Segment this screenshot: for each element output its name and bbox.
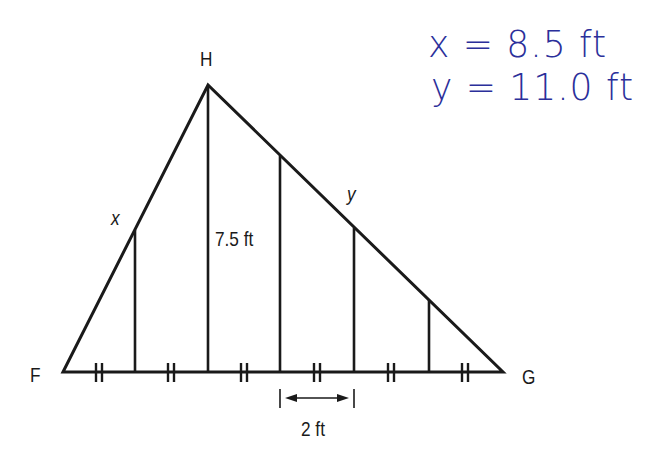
vertex-label-g: G (522, 366, 535, 387)
label-y: y (347, 183, 356, 204)
label-spacing: 2 ft (301, 418, 325, 439)
handwritten-answer-y: y = 11.0 ft (431, 68, 634, 106)
handwritten-answer-x: x = 8.5 ft (428, 25, 607, 63)
label-height: 7.5 ft (215, 228, 253, 249)
dimension-2ft (280, 389, 354, 408)
vertex-label-f: F (30, 364, 41, 385)
triangle-fgh (63, 85, 503, 372)
vertex-label-h: H (200, 48, 212, 69)
label-x: x (111, 207, 120, 228)
